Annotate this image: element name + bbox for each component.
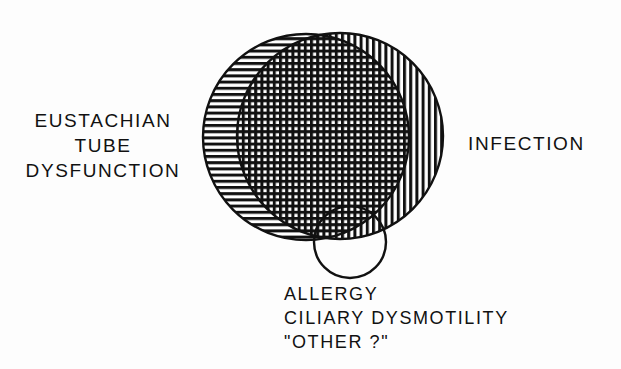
diagram-canvas: EUSTACHIAN TUBE DYSFUNCTION INFECTION AL… xyxy=(0,0,621,369)
label-infection: INFECTION xyxy=(468,131,585,156)
label-line: INFECTION xyxy=(468,133,585,154)
label-line: CILIARY DYSMOTILITY xyxy=(284,307,509,331)
label-line: DYSFUNCTION xyxy=(8,158,198,183)
label-line: EUSTACHIAN xyxy=(8,108,198,133)
label-line: TUBE xyxy=(8,133,198,158)
label-line: ALLERGY xyxy=(284,283,509,307)
label-eustachian-tube-dysfunction: EUSTACHIAN TUBE DYSFUNCTION xyxy=(8,108,198,183)
label-allergy-ciliary-other: ALLERGY CILIARY DYSMOTILITY "OTHER ?" xyxy=(284,283,509,354)
label-line: "OTHER ?" xyxy=(284,331,509,355)
